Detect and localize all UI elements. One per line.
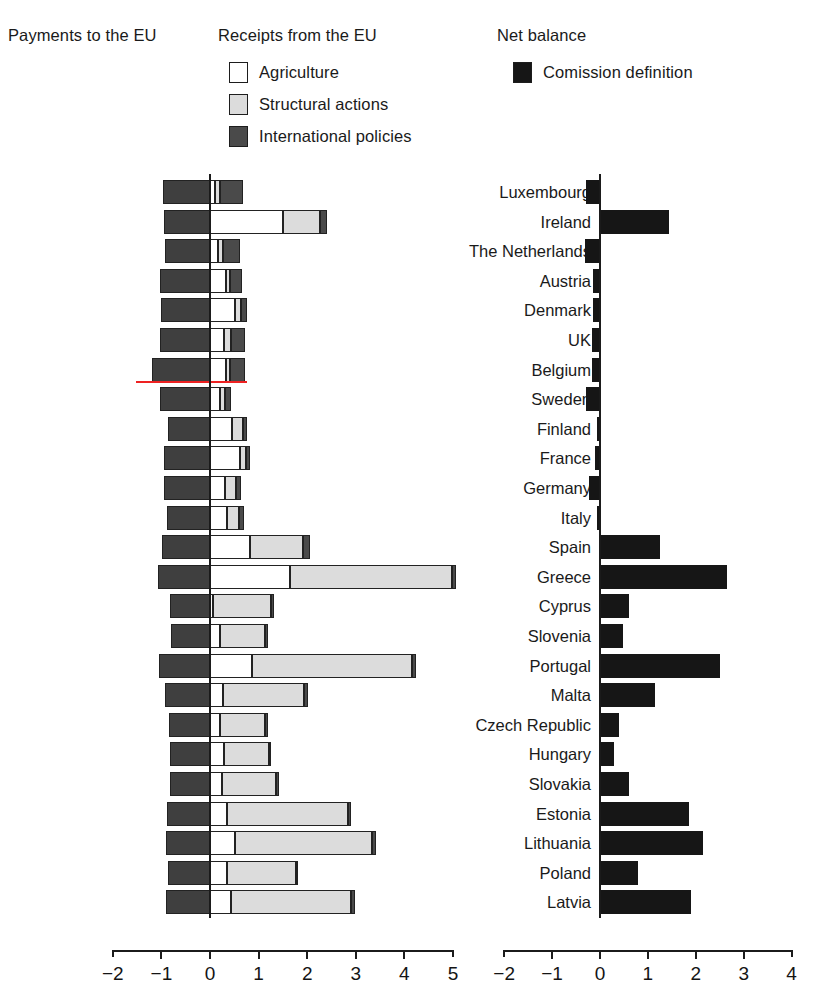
bar-segment-international-policies (236, 476, 241, 500)
net-balance-row (470, 476, 823, 500)
bar-segment-agriculture (210, 742, 224, 766)
net-balance-row (470, 358, 823, 382)
bar-segment-payments (163, 180, 210, 204)
bar-segment-agriculture (210, 654, 252, 678)
bar-segment-structural-actions (224, 328, 231, 352)
bar-segment-net-balance (600, 210, 669, 234)
bar-segment-structural-actions (235, 831, 372, 855)
bar-segment-net-balance (600, 683, 655, 707)
bar-segment-international-policies (223, 239, 240, 263)
axis-tick (599, 950, 601, 959)
bar-segment-international-policies (220, 180, 243, 204)
axis-tick (551, 950, 553, 959)
net-balance-row (470, 565, 823, 589)
net-balance-row (470, 446, 823, 470)
net-balance-row (470, 683, 823, 707)
bar-segment-international-policies (271, 594, 274, 618)
bar-segment-payments (170, 742, 210, 766)
bar-segment-agriculture (210, 239, 218, 263)
bar-segment-payments (159, 654, 210, 678)
bar-segment-international-policies (320, 210, 327, 234)
axis-tick-label: 3 (738, 963, 749, 985)
bar-segment-international-policies (348, 802, 351, 826)
bar-segment-structural-actions (220, 713, 265, 737)
bar-segment-agriculture (210, 565, 290, 589)
bar-segment-structural-actions (223, 683, 304, 707)
bar-segment-payments (168, 861, 210, 885)
axis-tick-label: 4 (786, 963, 797, 985)
net-balance-row (470, 387, 823, 411)
net-balance-row (470, 298, 823, 322)
net-balance-row (470, 742, 823, 766)
axis-tick (791, 950, 793, 957)
bar-segment-net-balance (600, 624, 623, 648)
bar-segment-net-balance (600, 890, 691, 914)
bar-segment-payments (161, 298, 210, 322)
bar-segment-net-balance (586, 180, 600, 204)
net-balance-row (470, 417, 823, 441)
bar-segment-payments (167, 802, 210, 826)
bar-segment-international-policies (246, 446, 250, 470)
bar-segment-structural-actions (220, 624, 265, 648)
axis-tick-label: 0 (205, 963, 216, 985)
highlight-line-belgium (136, 381, 247, 383)
net-balance-row (470, 328, 823, 352)
bar-segment-agriculture (210, 446, 240, 470)
bar-segment-payments (152, 358, 210, 382)
net-balance-row (470, 269, 823, 293)
axis-tick (743, 950, 745, 959)
bar-segment-net-balance (600, 831, 703, 855)
bar-segment-international-policies (230, 358, 245, 382)
bar-segment-net-balance (600, 802, 689, 826)
bar-segment-payments (169, 713, 210, 737)
axis-tick-label: 2 (302, 963, 313, 985)
bar-segment-structural-actions (227, 506, 239, 530)
bar-segment-payments (170, 594, 210, 618)
axis-tick (306, 950, 308, 959)
bar-segment-structural-actions (232, 417, 242, 441)
axis-tick (355, 950, 357, 959)
bar-segment-structural-actions (250, 535, 303, 559)
bar-segment-agriculture (210, 417, 232, 441)
bar-segment-agriculture (210, 861, 227, 885)
bar-segment-net-balance (600, 594, 629, 618)
bar-segment-payments (160, 269, 210, 293)
bar-segment-international-policies (265, 713, 267, 737)
net-balance-row (470, 210, 823, 234)
axis-tick (695, 950, 697, 959)
bar-segment-agriculture (210, 831, 235, 855)
bar-segment-international-policies (269, 742, 271, 766)
axis-tick-label: −2 (102, 963, 124, 985)
axis-tick-label: 2 (691, 963, 702, 985)
axis-tick-label: 1 (643, 963, 654, 985)
bar-segment-agriculture (210, 506, 227, 530)
bar-segment-agriculture (210, 624, 220, 648)
bar-segment-agriculture (210, 535, 250, 559)
bar-segment-net-balance (600, 742, 614, 766)
bar-segment-structural-actions (213, 594, 270, 618)
bar-segment-structural-actions (283, 210, 320, 234)
zero-line-left (209, 174, 211, 918)
axis-tick-label: −1 (151, 963, 173, 985)
net-balance-row (470, 594, 823, 618)
net-balance-row (470, 624, 823, 648)
zero-line-right (599, 174, 601, 918)
bar-segment-payments (164, 210, 210, 234)
bar-segment-international-policies (225, 387, 231, 411)
bar-segment-payments (165, 239, 210, 263)
bar-segment-structural-actions (231, 890, 351, 914)
bar-segment-agriculture (210, 683, 223, 707)
axis-tick (258, 950, 260, 959)
bar-segment-international-policies (303, 535, 310, 559)
net-balance-row (470, 180, 823, 204)
net-balance-row (470, 802, 823, 826)
net-balance-row (470, 772, 823, 796)
axis-tick (209, 950, 211, 959)
bar-segment-international-policies (265, 624, 268, 648)
bar-segment-net-balance (600, 565, 727, 589)
bar-segment-payments (166, 831, 210, 855)
bar-segment-international-policies (241, 298, 247, 322)
axis-tick-label: 3 (351, 963, 362, 985)
axis-tick-label: −1 (541, 963, 563, 985)
bar-segment-agriculture (210, 802, 227, 826)
